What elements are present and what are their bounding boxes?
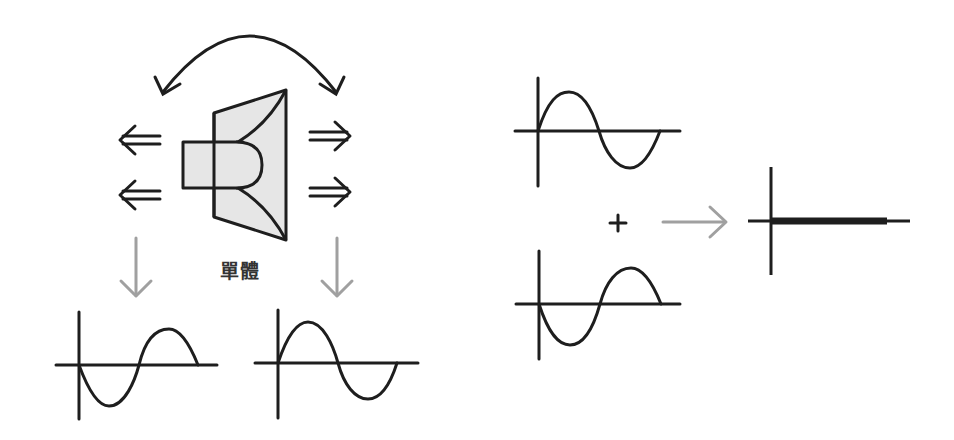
speaker-driver-label: 單體 [220, 256, 260, 283]
rear-wave-graph [56, 312, 217, 419]
plus-icon [610, 215, 626, 231]
down-arrow-icon [322, 238, 352, 296]
diagram-graphics [0, 0, 954, 440]
curved-double-arrow-icon [155, 36, 344, 94]
front-wave-graph [255, 310, 418, 418]
result-arrow-icon [663, 207, 726, 237]
down-arrow-icon [121, 238, 151, 296]
wave-a-graph [515, 78, 680, 186]
wave-b-graph [516, 251, 680, 359]
result-graph [748, 167, 910, 275]
left-double-arrow-icon [120, 181, 160, 209]
right-double-arrow-icon [310, 178, 350, 206]
left-double-arrow-icon [120, 126, 160, 154]
speaker-driver-icon [183, 90, 286, 240]
phase-cancellation-diagram: 單體 [0, 0, 954, 440]
right-double-arrow-icon [310, 122, 350, 150]
